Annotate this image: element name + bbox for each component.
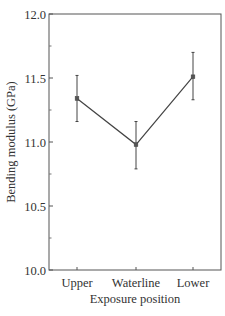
y-tick-label: 12.0 bbox=[24, 8, 46, 22]
x-tick-label: Upper bbox=[61, 276, 93, 290]
data-point-marker bbox=[75, 97, 79, 101]
plot-frame bbox=[49, 14, 221, 270]
data-point-marker bbox=[134, 143, 138, 147]
y-tick-label: 11.5 bbox=[25, 72, 46, 86]
x-tick-label: Waterline bbox=[112, 276, 161, 290]
data-series bbox=[75, 52, 195, 168]
data-point-marker bbox=[191, 75, 195, 79]
x-axis-label: Exposure position bbox=[90, 292, 181, 306]
plot-border bbox=[49, 14, 221, 270]
chart: 10.010.511.011.512.0 UpperWaterlineLower… bbox=[0, 0, 225, 316]
y-axis-label: Bending modulus (GPa) bbox=[4, 81, 18, 203]
x-tick-label: Lower bbox=[177, 276, 210, 290]
y-tick-label: 10.0 bbox=[24, 264, 46, 278]
y-tick-label: 10.5 bbox=[24, 200, 46, 214]
y-tick-label: 11.0 bbox=[25, 136, 46, 150]
data-line bbox=[77, 77, 193, 145]
